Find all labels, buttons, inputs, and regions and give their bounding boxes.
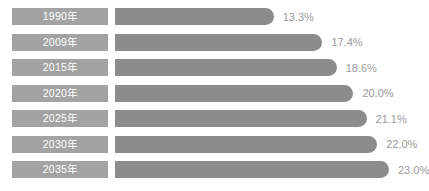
bar-track: 21.1% <box>115 110 389 127</box>
category-pill: 1990年 <box>12 8 108 25</box>
value-label: 21.1% <box>376 113 407 124</box>
bar-track: 17.4% <box>115 34 389 51</box>
chart-row: 2015年 18.6% <box>0 59 393 76</box>
value-label: 17.4% <box>331 37 362 48</box>
value-bar: 21.1% <box>115 110 367 127</box>
value-bar: 17.4% <box>115 34 322 51</box>
value-label: 23.0% <box>398 164 429 175</box>
bar-track: 13.3% <box>115 8 389 25</box>
value-bar: 20.0% <box>115 85 353 102</box>
value-bar: 22.0% <box>115 136 377 153</box>
category-label: 2009年 <box>43 37 77 48</box>
category-pill: 2030年 <box>12 136 108 153</box>
value-bar: 18.6% <box>115 59 337 76</box>
category-pill: 2015年 <box>12 59 108 76</box>
value-label: 13.3% <box>283 11 314 22</box>
chart-row: 1990年 13.3% <box>0 8 393 25</box>
category-label: 2020年 <box>43 88 77 99</box>
category-pill: 2009年 <box>12 34 108 51</box>
category-label: 1990年 <box>43 11 77 22</box>
value-label: 18.6% <box>346 62 377 73</box>
category-label: 2015年 <box>43 62 77 73</box>
category-pill: 2020年 <box>12 85 108 102</box>
category-label: 2035年 <box>43 164 77 175</box>
bar-track: 20.0% <box>115 85 389 102</box>
value-bar: 13.3% <box>115 8 274 25</box>
category-pill: 2035年 <box>12 161 108 178</box>
chart-row: 2009年 17.4% <box>0 34 393 51</box>
chart-row: 2035年 23.0% <box>0 161 393 178</box>
chart-row: 2025年 21.1% <box>0 110 393 127</box>
category-label: 2030年 <box>43 139 77 150</box>
value-label: 20.0% <box>362 88 393 99</box>
value-bar: 23.0% <box>115 161 389 178</box>
chart-row: 2030年 22.0% <box>0 136 393 153</box>
category-pill: 2025年 <box>12 110 108 127</box>
value-label: 22.0% <box>386 139 417 150</box>
bar-track: 18.6% <box>115 59 389 76</box>
bar-track: 23.0% <box>115 161 389 178</box>
bar-track: 22.0% <box>115 136 389 153</box>
category-label: 2025年 <box>43 113 77 124</box>
chart-row: 2020年 20.0% <box>0 85 393 102</box>
